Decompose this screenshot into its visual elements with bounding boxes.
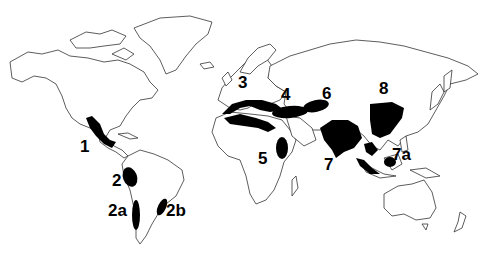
label-3: 3: [238, 74, 247, 91]
north-america: [10, 50, 158, 140]
label-1: 1: [80, 138, 89, 155]
greenland: [134, 16, 212, 74]
label-6: 6: [322, 85, 331, 102]
label-7: 7: [324, 156, 333, 173]
south-america: [122, 150, 184, 244]
australia: [384, 180, 436, 220]
center-2a-chile: [132, 200, 140, 230]
label-5: 5: [258, 150, 267, 167]
label-2b: 2b: [166, 202, 186, 219]
label-2a: 2a: [108, 202, 127, 219]
cuba: [118, 133, 138, 139]
label-2: 2: [112, 172, 121, 189]
iceland: [200, 62, 214, 69]
arctic-islands: [70, 30, 126, 48]
center-5-ethiopia: [276, 137, 288, 159]
label-8: 8: [379, 80, 388, 97]
arctic-island: [112, 48, 134, 60]
center-7-india: [320, 120, 362, 158]
label-4: 4: [281, 86, 290, 103]
world-map: [0, 0, 502, 258]
madagascar: [292, 176, 298, 196]
new-guinea: [410, 168, 440, 178]
label-7a: 7a: [392, 146, 411, 163]
tasmania: [422, 224, 428, 230]
new-zealand: [454, 212, 466, 232]
center-7a-sumatra: [356, 158, 380, 174]
